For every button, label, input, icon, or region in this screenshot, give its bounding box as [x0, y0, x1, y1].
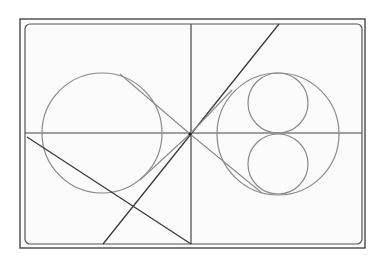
center-point [188, 132, 191, 135]
geometric-diagram [0, 0, 385, 263]
